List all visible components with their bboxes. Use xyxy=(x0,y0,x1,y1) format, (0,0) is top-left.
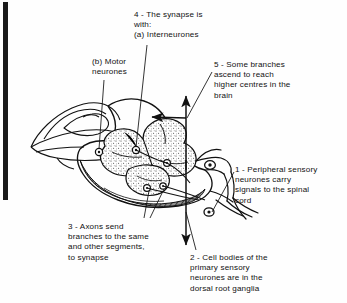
entry-arrow xyxy=(152,117,186,118)
dorsal-root-ganglia-group xyxy=(204,161,215,217)
annotation-label-3-axon-branches: 3 - Axons send branches to the same and … xyxy=(68,222,183,263)
annotation-label-b-motor-neurones: (b) Motor neurones xyxy=(92,57,172,77)
annotation-label-4-synapse: 4 - The synapse is with: (a) Interneuron… xyxy=(134,10,254,41)
annotation-label-1-peripheral-sensory: 1 - Peripheral sensory neurones carry si… xyxy=(235,165,347,206)
leader-label-5 xyxy=(187,72,212,118)
leader-label-2 xyxy=(186,212,196,250)
annotation-label-5-ascending-branches: 5 - Some branches ascend to reach higher… xyxy=(214,60,334,101)
annotation-label-2-cell-bodies: 2 - Cell bodies of the primary sensory n… xyxy=(190,253,330,294)
spinal-cord-figure: 4 - The synapse is with: (a) Interneuron… xyxy=(0,0,347,303)
